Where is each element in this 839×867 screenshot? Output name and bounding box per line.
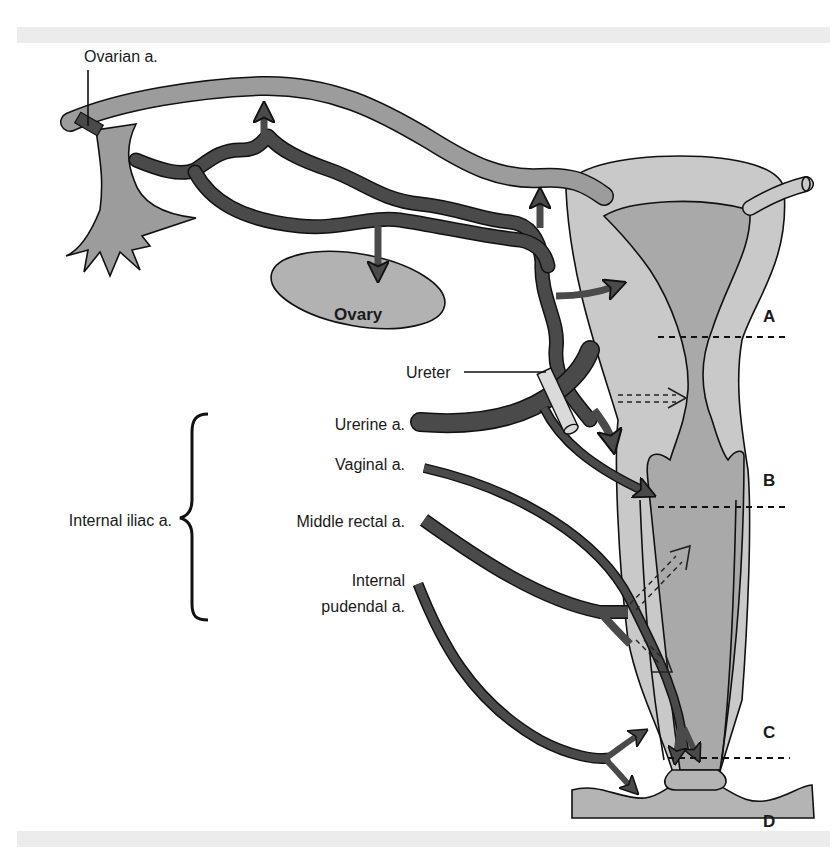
label-ovarian-artery: Ovarian a. <box>84 48 158 65</box>
arrow-to-cervix <box>594 410 612 442</box>
section-label-a: A <box>763 307 775 326</box>
label-ovary: Ovary <box>334 305 383 324</box>
fallopian-tube-right-end <box>802 177 810 191</box>
label-internal-iliac: Internal iliac a. <box>69 512 172 529</box>
introitus <box>665 770 726 790</box>
section-label-d: D <box>763 812 775 831</box>
label-ureter: Ureter <box>406 364 451 381</box>
arrow-pudendal-down <box>606 760 632 788</box>
middle-rectal-artery <box>424 520 628 612</box>
label-uterine-artery: Urerine a. <box>335 416 405 433</box>
label-internal-pudendal-1: Internal <box>352 572 405 589</box>
section-label-c: C <box>763 723 775 742</box>
section-label-b: B <box>763 471 775 490</box>
pelvic-arterial-supply-diagram: Ovarian a. Ovary Ureter Urerine a. Vagin… <box>0 0 839 867</box>
arrow-pudendal-up <box>606 734 640 758</box>
arrow-vaginal-left <box>676 728 680 756</box>
internal-iliac-brace <box>180 414 208 620</box>
label-vaginal-artery: Vaginal a. <box>335 456 405 473</box>
ovary-shape <box>265 239 451 340</box>
label-internal-pudendal-2: pudendal a. <box>321 598 405 615</box>
label-middle-rectal-artery: Middle rectal a. <box>297 513 406 530</box>
fimbriae <box>66 124 196 276</box>
